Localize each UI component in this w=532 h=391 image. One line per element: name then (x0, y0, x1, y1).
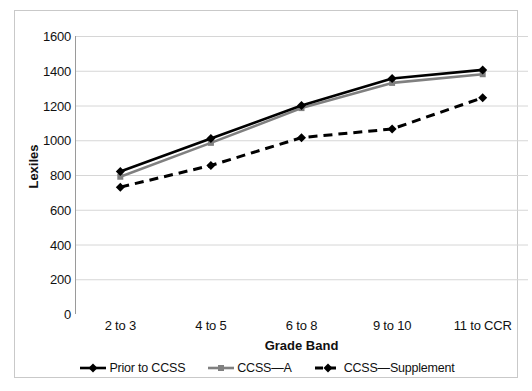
legend-item-label: CCSS—Supplement (344, 361, 455, 375)
data-point-marker (206, 161, 215, 170)
x-axis-tick-label: 9 to 10 (373, 318, 411, 333)
x-axis-tick-labels: 2 to 34 to 56 to 89 to 1011 to CCR (75, 318, 528, 336)
series-2 (117, 71, 485, 180)
legend-item[interactable]: CCSS—A (207, 361, 291, 375)
y-axis-tick-label: 1600 (43, 29, 71, 44)
y-axis-tick-label: 600 (50, 202, 71, 217)
legend-marker-icon (207, 361, 235, 375)
x-axis-title: Grade Band (75, 338, 528, 353)
y-axis-tick-label: 800 (50, 168, 71, 183)
y-axis-tick-label: 0 (64, 307, 71, 322)
data-point-marker (116, 183, 125, 192)
legend-marker-icon (314, 361, 342, 375)
x-axis-tick-label: 2 to 3 (105, 318, 136, 333)
legend-item-label: CCSS—A (237, 361, 291, 375)
legend-item[interactable]: CCSS—Supplement (314, 361, 455, 375)
data-point-marker (388, 124, 397, 133)
series-1 (116, 65, 487, 176)
data-point-marker (89, 364, 98, 373)
chart-legend: Prior to CCSSCCSS—ACCSS—Supplement (15, 361, 519, 375)
series-line (120, 74, 482, 177)
y-axis-tick-label: 200 (50, 272, 71, 287)
y-axis-tick-label: 400 (50, 237, 71, 252)
data-point-marker (478, 65, 487, 74)
chart-frame: Lexiles 02004006008001000120014001600 2 … (14, 10, 518, 378)
x-axis-tick-label: 11 to CCR (454, 318, 512, 333)
plot-area (75, 36, 528, 314)
y-axis-tick-labels: 02004006008001000120014001600 (29, 36, 71, 314)
data-point-marker (478, 93, 487, 102)
x-axis-tick-label: 4 to 5 (195, 318, 226, 333)
data-point-marker (323, 364, 332, 373)
legend-item-label: Prior to CCSS (109, 361, 185, 375)
y-axis-tick-label: 1400 (43, 63, 71, 78)
data-point-marker (218, 365, 224, 371)
y-axis-tick-label: 1000 (43, 133, 71, 148)
y-axis-tick-label: 1200 (43, 98, 71, 113)
legend-marker-icon (79, 361, 107, 375)
x-axis-tick-label: 6 to 8 (286, 318, 317, 333)
legend-item[interactable]: Prior to CCSS (79, 361, 185, 375)
line-chart-svg (75, 36, 528, 314)
